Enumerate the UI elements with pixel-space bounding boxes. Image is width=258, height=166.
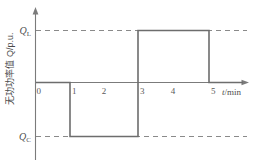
x-axis-caption: t/min (222, 87, 242, 97)
ql-subscript: L (27, 30, 31, 38)
ql-value-label: QL (19, 25, 31, 38)
x-tick-label-4: 4 (171, 86, 176, 96)
x-tick-label-1: 1 (72, 86, 77, 96)
qc-value-label: QC (19, 131, 31, 144)
y-axis-arrow-icon (33, 7, 39, 15)
guide-lines-group (36, 31, 247, 137)
x-tick-label-5: 5 (211, 86, 216, 96)
y-value-labels-group: QL QC (19, 25, 31, 144)
x-axis-caption-unit: /min (225, 87, 242, 97)
reactive-power-chart-figure: 0 1 2 3 4 5 QL QC t/min 无功功率值 Q/p.u. (0, 0, 258, 166)
x-tick-labels-group: 0 1 2 3 4 5 (37, 86, 217, 96)
signal-waveform-group (36, 31, 243, 137)
reactive-power-step-curve (36, 31, 243, 137)
chart-canvas: 0 1 2 3 4 5 QL QC t/min (0, 0, 258, 166)
qc-subscript: C (26, 136, 31, 144)
x-tick-label-0: 0 (37, 86, 42, 96)
x-tick-label-2: 2 (102, 86, 107, 96)
x-axis-caption-group: t/min (222, 87, 242, 97)
x-tick-label-3: 3 (140, 86, 145, 96)
